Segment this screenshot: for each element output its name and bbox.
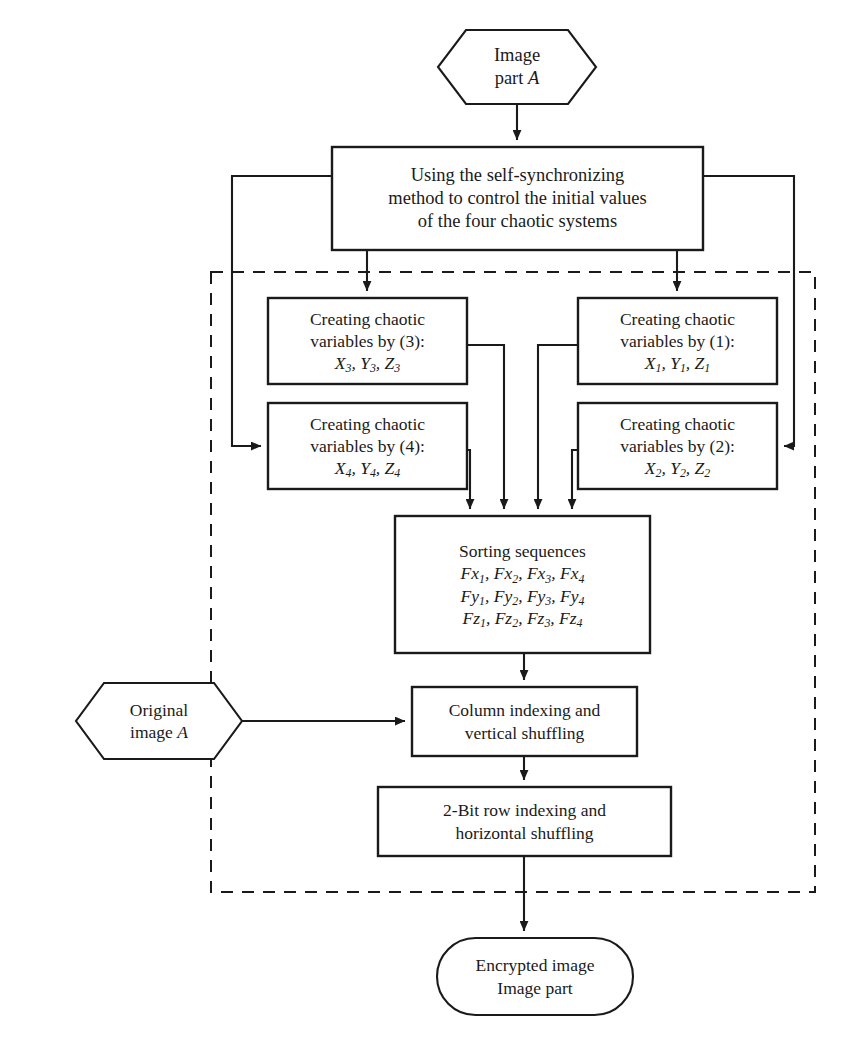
flowchart-canvas [0,0,860,1049]
chaotic-3-shape [268,298,467,384]
start-terminal-shape [438,30,596,104]
row-indexing-shape [378,787,671,856]
original-image-shape [76,683,242,759]
sorting-sequences-shape [395,516,650,653]
sync-process-shape [332,147,703,250]
end-terminal-shape [437,938,633,1015]
column-indexing-shape [412,687,637,756]
edge-chaotic-3-to-sorting [467,345,504,509]
flowchart-diagram: Image part A Using the self-synchronizin… [0,0,860,1049]
chaotic-1-shape [578,298,777,384]
chaotic-4-shape [268,403,467,489]
chaotic-2-shape [578,403,777,489]
